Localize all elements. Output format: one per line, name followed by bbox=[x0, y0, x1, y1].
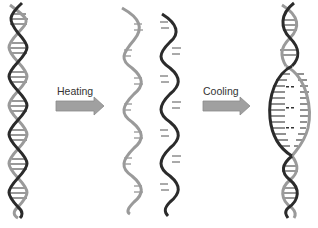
strand-dark-path bbox=[161, 14, 178, 216]
heating-label: Heating bbox=[57, 85, 93, 97]
single-strand-1 bbox=[122, 8, 143, 214]
heating-arrow bbox=[56, 97, 104, 115]
cooling-label: Cooling bbox=[203, 85, 239, 97]
diagram-canvas bbox=[0, 0, 318, 228]
single-strand-2 bbox=[160, 14, 181, 216]
dna-denaturation-diagram: Heating Cooling bbox=[0, 0, 318, 228]
cooling-arrow bbox=[203, 97, 250, 115]
hydrogen-bonds bbox=[286, 86, 294, 129]
strand-light-path bbox=[122, 8, 141, 214]
double-helix bbox=[9, 3, 28, 218]
reannealed-helix bbox=[270, 3, 310, 218]
